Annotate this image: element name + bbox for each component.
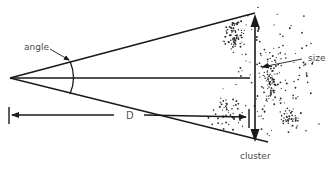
cluster-dot — [288, 115, 290, 117]
cluster-dot — [239, 43, 241, 45]
cluster-dot — [279, 33, 281, 35]
cluster-dot — [287, 122, 289, 124]
cluster-dot — [268, 98, 269, 99]
cluster-dot — [267, 61, 268, 62]
cluster-dot — [310, 92, 312, 94]
cluster-dot — [232, 22, 233, 23]
cluster-dot — [268, 80, 270, 82]
cluster-dot — [278, 47, 280, 49]
cluster-dot — [256, 39, 258, 41]
cluster-dot — [306, 75, 308, 77]
cluster-dot — [222, 100, 224, 102]
cluster-dot — [270, 58, 271, 59]
cluster-dot — [236, 23, 238, 25]
cluster-dot — [296, 125, 297, 126]
cluster-dot — [285, 80, 286, 81]
cluster-dot — [310, 43, 312, 45]
cluster-dot — [285, 90, 286, 91]
cluster-dot — [283, 117, 285, 119]
cluster-dot — [226, 30, 228, 32]
size-label: size — [308, 53, 326, 63]
cluster-dot — [275, 65, 276, 66]
cluster-dot — [318, 123, 320, 125]
cluster-dot — [233, 52, 234, 53]
cluster-dot — [297, 96, 298, 97]
cluster-dot — [306, 74, 307, 75]
cluster-dot — [300, 112, 302, 114]
cluster-dot — [232, 98, 234, 100]
cluster-dot — [288, 131, 290, 133]
cluster-dot — [280, 82, 282, 84]
cluster-dot — [232, 27, 234, 29]
cluster-dot — [259, 76, 260, 77]
cluster-dot — [280, 58, 281, 59]
cluster-dot — [231, 24, 233, 26]
cluster-dot — [234, 25, 235, 26]
cluster-dot — [267, 71, 269, 73]
cluster-dot — [232, 31, 233, 32]
cluster-dot — [238, 38, 240, 40]
cluster-dot — [228, 110, 229, 111]
cluster-dot — [234, 42, 236, 44]
cluster-dot — [279, 72, 280, 73]
cluster-dot — [267, 84, 268, 85]
cluster-dot — [271, 77, 272, 78]
cluster-dot — [233, 105, 234, 106]
cluster-dot — [256, 64, 258, 66]
cluster-dot — [272, 88, 273, 89]
cluster-dot — [259, 62, 261, 64]
cluster-dot — [267, 133, 269, 135]
cluster-dot — [231, 30, 232, 31]
cluster-dot — [269, 95, 271, 97]
cluster-dot — [265, 100, 266, 101]
cluster-dot — [295, 115, 296, 116]
cluster-dot — [235, 32, 236, 33]
cluster-dot — [281, 65, 283, 67]
cluster-dot — [211, 123, 213, 125]
cluster-dot — [246, 24, 247, 25]
cluster-dot — [227, 29, 229, 31]
cluster-dot — [293, 62, 294, 63]
cluster-dot — [256, 36, 258, 38]
cluster-dot — [297, 120, 299, 122]
cluster-dot — [249, 62, 250, 63]
cluster-dot — [257, 111, 258, 112]
cluster-dot — [223, 128, 225, 130]
cluster-dot — [271, 61, 272, 62]
cluster-dot — [245, 105, 246, 106]
cluster-dot — [231, 108, 233, 110]
cluster-dot — [250, 74, 251, 75]
cluster-dot — [257, 95, 259, 97]
cluster-dot — [233, 39, 235, 41]
cluster-dot — [270, 90, 272, 92]
cluster-dot — [220, 98, 221, 99]
cluster-dot — [260, 65, 262, 67]
cluster-dot — [238, 71, 240, 73]
cluster-dot — [290, 112, 292, 114]
cluster-dot — [231, 43, 233, 45]
cluster-dot — [213, 109, 215, 111]
cluster-dot — [226, 107, 227, 108]
cluster-dot — [239, 35, 241, 37]
cluster-dot — [268, 96, 269, 97]
cluster-dot — [244, 30, 245, 31]
cluster-dot — [281, 119, 282, 120]
cluster-dot — [281, 115, 282, 116]
cluster-dot — [217, 122, 219, 124]
cluster-dot — [232, 129, 234, 131]
cluster-dot — [277, 14, 278, 15]
cluster-dot — [230, 39, 232, 41]
cluster-dot — [215, 113, 217, 115]
cluster-dot — [238, 122, 239, 123]
cluster-dot — [235, 46, 236, 47]
cluster-dot — [279, 52, 281, 54]
cluster-dot — [264, 49, 266, 51]
cluster-dot — [271, 75, 272, 76]
cluster-dot — [299, 67, 301, 69]
cluster-dot — [268, 75, 270, 77]
cluster-dot — [264, 72, 265, 73]
cluster-dot — [271, 79, 272, 80]
cluster-dot — [251, 82, 253, 84]
cluster-dot — [238, 103, 239, 104]
cluster-dot — [280, 102, 282, 104]
